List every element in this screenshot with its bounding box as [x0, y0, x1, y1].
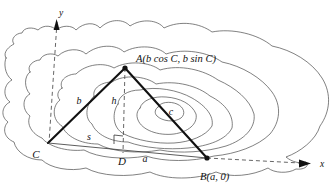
vertex-label-b: B(a, 0)	[200, 171, 230, 183]
side-label-h: h	[112, 95, 117, 106]
figure-root: y x A(b cos C, b sin C) B(a, 0) C b a c …	[0, 0, 335, 193]
side-label-b: b	[77, 95, 82, 106]
y-axis-label: y	[58, 8, 64, 18]
right-angle-marker	[114, 135, 123, 144]
vertex-label-c: C	[32, 148, 40, 160]
axes-group	[49, 19, 311, 168]
vertex-dot-b	[204, 155, 209, 160]
label-group: y x A(b cos C, b sin C) B(a, 0) C b a c …	[32, 8, 325, 183]
x-axis-label: x	[319, 159, 325, 169]
vertex-label-a: A(b cos C, b sin C)	[135, 53, 216, 65]
contour-map-diagram: y x A(b cos C, b sin C) B(a, 0) C b a c …	[0, 0, 335, 193]
side-label-s: s	[87, 131, 91, 142]
side-label-a: a	[143, 153, 148, 164]
x-axis-arrowhead	[299, 160, 311, 168]
altitude-h-line	[123, 68, 125, 153]
side-label-c: c	[169, 106, 174, 117]
triangle-group	[48, 65, 210, 160]
contour-line-4	[87, 77, 232, 149]
vertex-dot-a	[122, 65, 127, 70]
x-axis-line	[207, 158, 300, 163]
foot-label-d: D	[117, 155, 126, 167]
y-axis-arrowhead	[54, 19, 60, 30]
y-axis-line	[49, 22, 57, 143]
